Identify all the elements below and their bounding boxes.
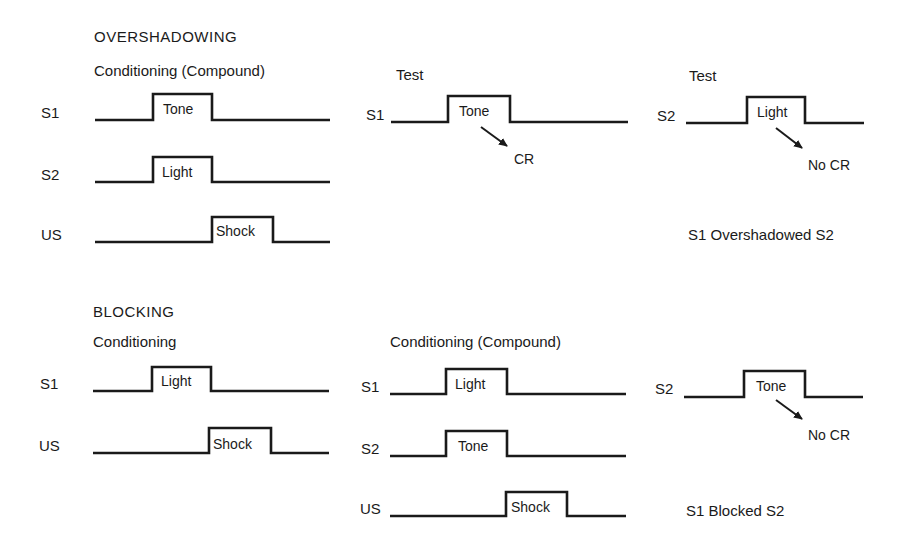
bl-pulse-label: Shock [213,437,252,451]
bl-conclusion: S1 Blocked S2 [686,503,784,518]
blocking-title: BLOCKING [93,304,175,319]
os-row-label: S2 [41,167,59,182]
os-pulse-label: Tone [163,102,193,116]
blc-row-label: S1 [361,379,379,394]
blc-row-label: S2 [361,441,379,456]
trace-blc-us [390,492,626,516]
os-test1-heading: Test [396,67,424,82]
os-test1-response: CR [514,152,534,166]
os-test2-response: No CR [808,158,850,172]
blc-row-label: US [360,501,381,516]
os-test2-label: S2 [657,108,675,123]
trace-bl-us [93,428,329,453]
trace-blc-s1 [390,369,626,394]
overshadowing-title: OVERSHADOWING [94,29,237,44]
os-pulse-label: Shock [216,224,255,238]
os-test2-heading: Test [689,68,717,83]
os-test1-label: S1 [366,107,384,122]
trace-os-us [95,217,330,242]
arrow-os-nocr [776,128,802,148]
os-test2-pulse: Light [757,105,787,119]
os-test1-pulse: Tone [459,104,489,118]
trace-blc-s2 [390,431,626,456]
trace-os-test-s1 [391,96,628,122]
os-row-label: US [41,227,62,242]
blc-pulse-label: Shock [511,500,550,514]
bl-row-label: US [39,438,60,453]
blc-pulse-label: Light [455,377,485,391]
blc-heading: Conditioning (Compound) [390,334,561,349]
arrow-os-cr [481,127,507,146]
bl-test-response: No CR [808,428,850,442]
trace-bl-s1 [93,367,329,391]
timing-traces [0,0,901,546]
os-row-label: S1 [41,105,59,120]
trace-os-s2 [95,157,330,182]
trace-os-s1 [95,94,330,120]
os-conclusion: S1 Overshadowed S2 [688,227,834,242]
os-pulse-label: Light [162,165,192,179]
bl-pulse-label: Light [161,374,191,388]
bl-row-label: S1 [40,376,58,391]
arrow-bl-nocr [776,400,802,419]
bl-conditioning-heading: Conditioning [93,334,176,349]
bl-test-pulse: Tone [756,379,786,393]
blc-pulse-label: Tone [458,439,488,453]
os-conditioning-heading: Conditioning (Compound) [94,63,265,78]
bl-test-label: S2 [655,381,673,396]
